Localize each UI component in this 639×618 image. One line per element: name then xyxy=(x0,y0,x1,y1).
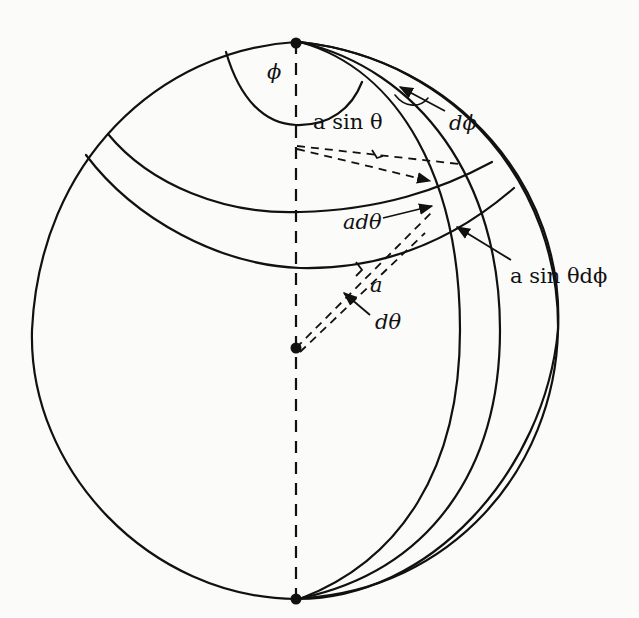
label-phi: ϕ xyxy=(267,62,281,83)
label-a-d-theta: adθ xyxy=(343,212,382,233)
label-d-theta: dθ xyxy=(375,312,401,333)
d-phi-pointer xyxy=(400,87,445,111)
right-angle-tick-top xyxy=(372,150,383,158)
sphere-area-element-figure: ϕ a sin θ dϕ adθ a sin θdϕ a dθ xyxy=(0,0,639,618)
a-d-theta-pointer xyxy=(383,206,432,218)
label-a-sin-theta: a sin θ xyxy=(313,112,383,133)
center-dot xyxy=(291,343,302,354)
north-pole-dot xyxy=(291,38,302,49)
radius-to-lower-corner xyxy=(297,149,430,181)
d-theta-pointer xyxy=(344,293,370,315)
label-a-sin-theta-d-phi: a sin θdϕ xyxy=(510,266,607,287)
south-pole-dot xyxy=(291,594,302,605)
radius-a-lower xyxy=(300,233,425,352)
label-d-phi: dϕ xyxy=(449,113,477,134)
sphere-diagram xyxy=(0,0,639,618)
label-a-radius: a xyxy=(370,275,383,296)
radius-to-upper-corner xyxy=(297,146,459,164)
a-sin-theta-d-phi-pointer xyxy=(457,227,511,260)
